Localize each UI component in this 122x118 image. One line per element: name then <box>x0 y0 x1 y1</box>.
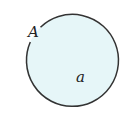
point-label-a: A <box>26 23 39 41</box>
diagram-canvas: A a <box>0 0 122 118</box>
region-label-a: a <box>76 68 85 86</box>
